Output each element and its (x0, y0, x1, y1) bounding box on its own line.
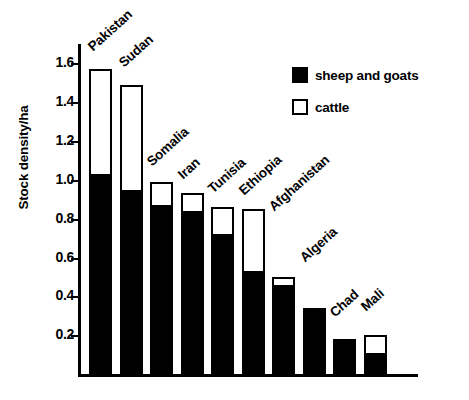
bar-segment-sheep-and-goats (120, 190, 143, 374)
y-axis-tick-label: 0.6 (34, 249, 74, 265)
y-axis-tick-label: 1.2 (34, 132, 74, 148)
y-axis-tick-label: 0.2 (34, 326, 74, 342)
y-axis-tick-label: 0.8 (34, 210, 74, 226)
category-label-chad: Chad (327, 287, 362, 320)
y-axis-tick-label: 1.6 (34, 54, 74, 70)
category-label-algeria: Algeria (296, 224, 339, 265)
bar-pakistan (89, 69, 112, 374)
bar-segment-sheep-and-goats (272, 285, 295, 374)
bar-segment-sheep-and-goats (364, 353, 387, 374)
category-label-iran: Iran (174, 155, 202, 182)
bar-afghanistan (272, 277, 295, 374)
bar-sudan (120, 85, 143, 374)
bar-algeria (303, 310, 326, 374)
chart-legend: sheep and goatscattle (292, 66, 462, 130)
bar-mali (364, 335, 387, 374)
category-label-mali: Mali (357, 286, 386, 314)
bar-segment-sheep-and-goats (333, 339, 356, 374)
bar-iran (181, 193, 204, 374)
bar-segment-sheep-and-goats (242, 271, 265, 374)
legend-label: cattle (315, 100, 349, 115)
bar-segment-sheep-and-goats (89, 174, 112, 374)
y-axis-tick-label: 0.4 (34, 287, 74, 303)
hollow-square-icon (292, 99, 308, 115)
filled-square-icon (292, 67, 308, 83)
y-axis-label: Stock density/ha (16, 73, 31, 243)
legend-label: sheep and goats (315, 68, 419, 83)
bar-somalia (150, 182, 173, 374)
y-axis-line (78, 44, 81, 375)
bar-segment-sheep-and-goats (211, 234, 234, 374)
legend-item-cattle: cattle (292, 98, 462, 116)
chart-figure: Stock density/ha 0.20.40.60.81.01.21.41.… (0, 0, 469, 400)
y-axis-tick-label: 1.4 (34, 93, 74, 109)
x-axis-line (78, 374, 418, 377)
bar-chad (333, 341, 356, 374)
bar-tunisia (211, 207, 234, 374)
bar-segment-sheep-and-goats (150, 205, 173, 374)
bar-segment-sheep-and-goats (181, 211, 204, 374)
bar-ethiopia (242, 209, 265, 374)
category-label-sudan: Sudan (115, 32, 155, 70)
legend-item-sheep-and-goats: sheep and goats (292, 66, 462, 84)
bar-segment-sheep-and-goats (303, 308, 326, 374)
y-axis-tick-label: 1.0 (34, 171, 74, 187)
